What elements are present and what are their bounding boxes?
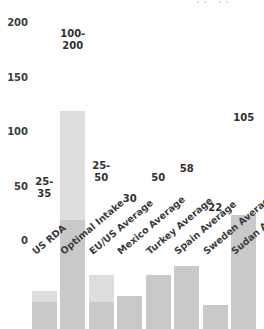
- y-tick-label: 100: [2, 126, 28, 137]
- y-tick-label: 150: [2, 71, 28, 82]
- y-axis: 050100150200: [0, 0, 28, 329]
- plot-area: 050100150200 25- 35100- 20025- 503050582…: [0, 0, 264, 329]
- y-tick-label: 200: [2, 17, 28, 28]
- y-tick-label: 50: [2, 180, 28, 191]
- y-tick-label: 0: [2, 235, 28, 246]
- bar-chart: ·· ·· 050100150200 25- 35100- 20025- 503…: [0, 0, 264, 329]
- x-axis-labels: US RDAOptimal IntakeEU/US AverageMexico …: [30, 0, 258, 329]
